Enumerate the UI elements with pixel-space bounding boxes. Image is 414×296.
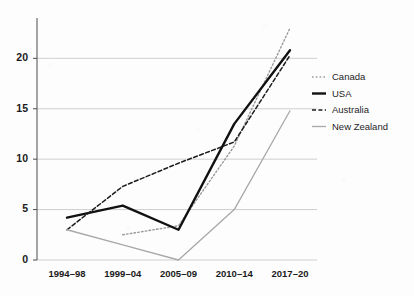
legend-label-australia: Australia (332, 104, 370, 115)
x-axis-tick-labels: 1994–981999–042005–092010–142017–20 (49, 268, 309, 279)
series-line-australia (67, 55, 290, 229)
y-axis-tick-label: 15 (16, 102, 28, 114)
data-series-group (67, 28, 290, 260)
x-axis-tick-label: 2005–09 (160, 268, 197, 279)
y-axis-ticks (33, 58, 37, 260)
line-chart: 05101520 1994–981999–042005–092010–14201… (0, 0, 414, 296)
chart-plot-area: 05101520 1994–981999–042005–092010–14201… (0, 0, 414, 296)
y-axis-tick-label: 20 (16, 51, 28, 63)
x-axis-tick-label: 2010–14 (216, 268, 254, 279)
x-axis-tick-label: 2017–20 (272, 268, 309, 279)
series-line-new-zealand (67, 111, 290, 260)
legend-label-new-zealand: New Zealand (332, 121, 388, 132)
y-axis-tick-labels: 05101520 (16, 51, 28, 265)
x-axis-tick-label: 1994–98 (49, 268, 86, 279)
legend-label-canada: Canada (332, 71, 366, 82)
y-axis-tick-label: 0 (22, 253, 28, 265)
chart-legend: CanadaUSAAustraliaNew Zealand (312, 71, 388, 132)
series-line-canada (123, 28, 290, 235)
series-line-usa (67, 50, 290, 229)
y-axis-tick-label: 10 (16, 152, 28, 164)
y-axis-tick-label: 5 (22, 202, 28, 214)
legend-label-usa: USA (332, 88, 352, 99)
x-axis-tick-label: 1999–04 (104, 268, 142, 279)
